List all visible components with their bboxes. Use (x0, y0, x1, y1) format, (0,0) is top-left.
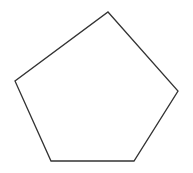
background (0, 0, 193, 173)
diagram-canvas (0, 0, 193, 173)
